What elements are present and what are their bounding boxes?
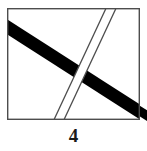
figure-caption-label: 4 — [0, 124, 147, 148]
figure-container: 4 — [0, 0, 147, 151]
